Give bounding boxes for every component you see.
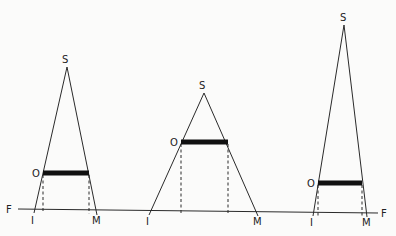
label-i-middle: I <box>146 216 149 227</box>
label-f-left: F <box>6 204 12 215</box>
label-m-right: M <box>362 217 371 228</box>
label-s-left: S <box>62 54 68 65</box>
label-f-right: F <box>381 208 387 219</box>
label-o-right: O <box>307 178 315 189</box>
triangle-middle-right-side <box>204 93 258 216</box>
baseline-f <box>18 209 378 213</box>
triangle-left-left-side <box>34 67 67 213</box>
label-s-middle: S <box>199 80 205 91</box>
label-s-right: S <box>340 12 346 23</box>
triangle-right-right-side <box>344 25 367 217</box>
label-o-left: O <box>32 168 40 179</box>
label-i-right: I <box>310 217 313 228</box>
triangle-projection-diagram: FFSOIMSOIMSOIM <box>0 0 396 236</box>
label-m-middle: M <box>253 216 262 227</box>
label-o-middle: O <box>170 137 178 148</box>
label-i-left: I <box>31 215 34 226</box>
diagram-canvas: FFSOIMSOIMSOIM <box>0 0 396 236</box>
triangle-left-right-side <box>67 67 97 215</box>
label-m-left: M <box>92 215 101 226</box>
triangle-middle-left-side <box>149 93 204 215</box>
